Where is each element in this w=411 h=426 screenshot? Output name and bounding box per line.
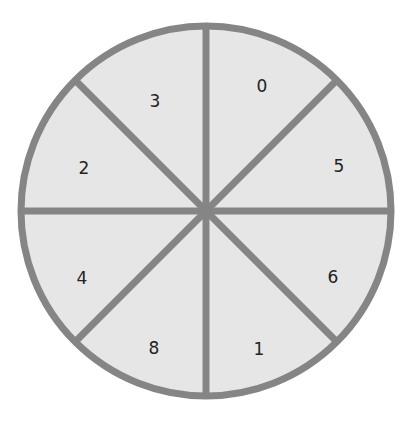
sector-label-4: 4 (77, 268, 88, 288)
sector-label-6: 6 (328, 267, 339, 287)
sector-label-5: 5 (334, 156, 345, 176)
hub (200, 205, 212, 217)
sector-label-1: 1 (254, 339, 265, 359)
sector-label-2: 2 (79, 158, 90, 178)
sector-label-0: 0 (257, 76, 268, 96)
sector-label-8: 8 (149, 338, 160, 358)
spinner-wheel: 0 5 6 1 8 4 2 3 (0, 0, 411, 426)
sector-label-3: 3 (150, 91, 161, 111)
